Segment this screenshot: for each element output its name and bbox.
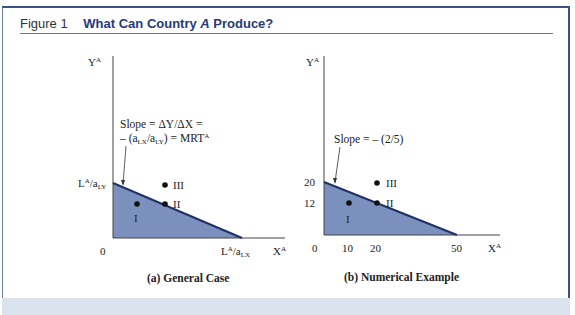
svg-text:Slope = ΔY/ΔX =: Slope = ΔY/ΔX = xyxy=(120,118,202,131)
svg-text:20: 20 xyxy=(304,176,316,188)
chart-canvas: I II III YA LA/aLY 0 LA/aLX XA Slope = Δ… xyxy=(0,0,575,315)
svg-text:II: II xyxy=(386,197,394,209)
panel-a-chart: I II III YA LA/aLY 0 LA/aLX XA Slope = Δ… xyxy=(78,56,286,259)
svg-text:0: 0 xyxy=(312,242,318,254)
svg-text:Slope = – (2/5): Slope = – (2/5) xyxy=(334,133,404,146)
svg-text:20: 20 xyxy=(370,242,382,254)
svg-text:12: 12 xyxy=(304,197,315,209)
svg-text:– (aLX/aLY) = MRTA: – (aLX/aLY) = MRTA xyxy=(119,132,209,146)
svg-text:YA: YA xyxy=(88,56,101,68)
svg-text:50: 50 xyxy=(451,242,463,254)
svg-text:YA: YA xyxy=(306,56,319,68)
svg-text:0: 0 xyxy=(100,245,106,257)
svg-text:XA: XA xyxy=(273,245,286,257)
svg-text:10: 10 xyxy=(342,242,354,254)
svg-text:III: III xyxy=(386,177,397,189)
svg-text:III: III xyxy=(173,179,184,191)
svg-text:XA: XA xyxy=(488,242,501,254)
bottom-band xyxy=(2,298,570,315)
svg-text:I: I xyxy=(346,213,350,225)
svg-text:II: II xyxy=(173,198,181,210)
caption-general-case: (a) General Case xyxy=(147,272,229,284)
panel-b-chart: I II III YA 20 12 0 10 20 50 XA Slope = … xyxy=(304,56,501,254)
caption-numerical-example: (b) Numerical Example xyxy=(344,271,459,283)
svg-text:LA/aLY: LA/aLY xyxy=(78,177,106,191)
svg-text:LA/aLX: LA/aLX xyxy=(221,245,250,259)
svg-text:I: I xyxy=(134,212,138,224)
